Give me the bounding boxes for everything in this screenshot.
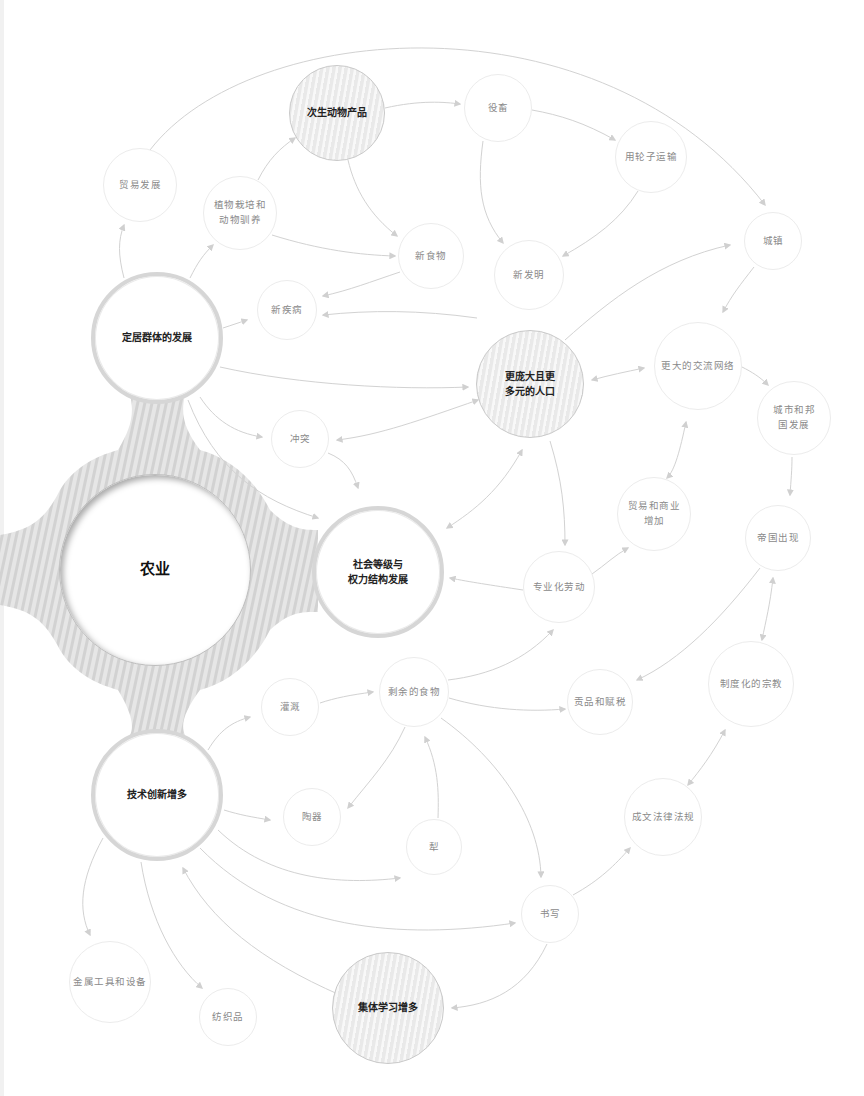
node-conflict: 冲突	[271, 410, 329, 468]
node-label-line: 更庞大且更	[505, 369, 555, 385]
node-textile: 纺织品	[199, 988, 257, 1046]
edge-arrow	[532, 110, 615, 140]
node-label-line: 更大的交流网络	[661, 359, 735, 374]
edge-arrow	[450, 578, 523, 590]
node-label-line: 新发明	[513, 268, 545, 283]
node-commerce: 贸易和商业增加	[617, 477, 691, 551]
edge-arrow	[742, 367, 768, 385]
node-label: 书写	[540, 907, 561, 922]
node-label: 城市和邦国发展	[773, 403, 815, 432]
node-citystate: 城市和邦国发展	[757, 381, 831, 455]
edge-arrow	[224, 810, 270, 820]
edge-arrow	[83, 838, 103, 935]
edge-arrow	[200, 397, 262, 437]
node-label-line: 权力结构发展	[348, 572, 408, 588]
node-label: 成文法律法规	[632, 810, 695, 825]
edge-arrow	[563, 191, 638, 256]
node-label: 城镇	[763, 234, 784, 249]
node-hierarchy: 社会等级与权力结构发展	[312, 506, 444, 638]
node-tribute: 贡品和赋税	[567, 669, 633, 735]
edge-arrow	[320, 692, 373, 703]
node-secondary: 次生动物产品	[289, 65, 385, 161]
edge-arrow	[323, 312, 477, 318]
edge-arrow	[480, 141, 503, 243]
node-label: 技术创新增多	[127, 787, 187, 803]
edge-arrow	[337, 400, 478, 440]
edge-arrow	[762, 578, 773, 640]
node-label-line: 新食物	[415, 249, 447, 264]
node-pottery: 陶器	[283, 788, 341, 846]
node-label: 集体学习增多	[358, 1000, 418, 1016]
node-label-line: 贸易发展	[119, 178, 161, 193]
node-label: 新食物	[415, 249, 447, 264]
edge-arrow	[723, 267, 754, 312]
edge-arrow	[790, 457, 792, 495]
node-label: 贸易和商业增加	[628, 499, 681, 528]
node-label-line: 役畜	[488, 101, 509, 116]
node-population: 更庞大且更多元的人口	[476, 330, 584, 438]
node-label: 陶器	[302, 810, 323, 825]
node-label: 灌溉	[280, 700, 301, 715]
node-domestication: 植物栽培和动物驯养	[203, 176, 277, 250]
node-label: 贸易发展	[119, 178, 161, 193]
node-town: 城镇	[744, 212, 802, 270]
node-network: 更大的交流网络	[654, 322, 742, 410]
edge-arrow	[550, 441, 565, 545]
node-label-line: 社会等级与	[348, 557, 408, 573]
node-label-line: 成文法律法规	[632, 810, 695, 825]
node-label: 制度化的宗教	[720, 677, 783, 692]
node-label: 植物栽培和动物驯养	[214, 198, 267, 227]
node-label-line: 专业化劳动	[533, 580, 586, 595]
node-label: 次生动物产品	[307, 105, 367, 121]
node-wheel: 用轮子运输	[615, 121, 687, 193]
edge-arrow	[328, 453, 358, 488]
node-label-line: 新疾病	[271, 303, 303, 318]
node-invention: 新发明	[494, 240, 564, 310]
node-label-line: 动物驯养	[214, 213, 267, 228]
node-law: 成文法律法规	[624, 778, 702, 856]
node-label-line: 次生动物产品	[307, 105, 367, 121]
node-label: 犁	[429, 840, 440, 855]
edge-arrow	[141, 862, 202, 988]
edge-arrow	[348, 727, 405, 808]
node-surplus: 剩余的食物	[379, 657, 449, 727]
edge-arrow	[120, 225, 125, 278]
edge-arrow	[348, 160, 397, 236]
node-label-line: 帝国出现	[757, 531, 799, 546]
node-religion: 制度化的宗教	[708, 641, 794, 727]
node-label-line: 定居群体的发展	[122, 330, 192, 346]
edge-arrow	[448, 630, 553, 680]
node-label: 定居群体的发展	[122, 330, 192, 346]
edge-arrow	[573, 848, 630, 895]
edge-arrow	[272, 235, 395, 256]
node-plough: 犁	[406, 819, 462, 875]
edge-arrow	[190, 245, 213, 278]
edge-arrow	[183, 868, 340, 995]
node-label: 新发明	[513, 268, 545, 283]
edge-arrow	[447, 450, 522, 528]
node-label: 金属工具和设备	[73, 975, 147, 990]
node-label-line: 犁	[429, 840, 440, 855]
edge-arrow	[688, 730, 725, 785]
edge-arrow	[667, 422, 686, 478]
node-label-line: 植物栽培和	[214, 198, 267, 213]
node-label-line: 多元的人口	[505, 384, 555, 400]
edge-arrow	[592, 548, 628, 574]
edge-arrow	[220, 367, 468, 388]
node-label-line: 纺织品	[212, 1010, 244, 1025]
edge-arrow	[208, 717, 250, 750]
node-label: 专业化劳动	[533, 580, 586, 595]
node-label-line: 国发展	[773, 418, 815, 433]
node-label-line: 增加	[628, 514, 681, 529]
node-label: 役畜	[488, 101, 509, 116]
node-writing: 书写	[521, 885, 579, 943]
node-empire: 帝国出现	[745, 505, 811, 571]
node-label-line: 金属工具和设备	[73, 975, 147, 990]
node-label-line: 用轮子运输	[625, 150, 678, 165]
node-label-line: 城市和邦	[773, 403, 815, 418]
node-label: 帝国出现	[757, 531, 799, 546]
node-label-line: 制度化的宗教	[720, 677, 783, 692]
edge-arrow	[592, 368, 644, 380]
node-label-line: 灌溉	[280, 700, 301, 715]
node-label: 纺织品	[212, 1010, 244, 1025]
